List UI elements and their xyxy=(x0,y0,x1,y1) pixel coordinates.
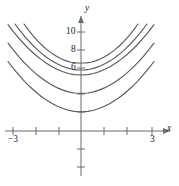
y-axis-arrow xyxy=(78,16,84,23)
y-tick-label-8: 8 xyxy=(71,45,76,55)
x-axis-label: x xyxy=(167,124,171,134)
y-axis-label: y xyxy=(85,4,89,14)
y-tick-label-6: 6 xyxy=(71,63,76,73)
x-tick-label-neg3: −3 xyxy=(8,135,18,145)
y-axis xyxy=(77,16,85,176)
y-tick-label-10: 10 xyxy=(66,27,76,37)
x-axis xyxy=(5,127,170,135)
plot-canvas xyxy=(0,0,179,186)
x-tick-label-pos3: 3 xyxy=(150,135,155,145)
parabola-family-figure: 10 8 6 −3 3 x y xyxy=(0,0,179,186)
